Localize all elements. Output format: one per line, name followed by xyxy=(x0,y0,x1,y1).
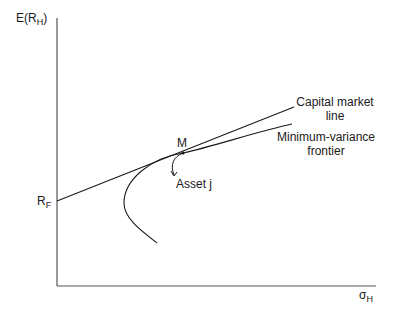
rf-label: RF xyxy=(37,194,51,208)
asset-j-arrow xyxy=(172,153,183,175)
asset-j-label: Asset j xyxy=(176,177,212,191)
cml-diagram: E(RH) RF σH M Asset j Capital market lin… xyxy=(0,0,393,311)
point-m-label: M xyxy=(177,136,187,150)
y-axis-label-main: E(R xyxy=(16,11,37,25)
y-axis-label: E(RH) xyxy=(16,11,47,25)
cml-label-line1: Capital market xyxy=(294,95,376,109)
frontier-label: Minimum-variance frontier xyxy=(271,130,381,158)
x-axis-label: σH xyxy=(359,288,373,302)
y-axis-label-close: ) xyxy=(43,11,47,25)
x-axis-label-sub: H xyxy=(366,294,373,304)
arrowhead-icon xyxy=(171,171,177,176)
rf-label-sub: F xyxy=(46,200,52,210)
cml-label-line2: line xyxy=(294,109,376,123)
frontier-label-line2: frontier xyxy=(271,144,381,158)
rf-label-main: R xyxy=(37,194,46,208)
frontier-label-line1: Minimum-variance xyxy=(271,130,381,144)
cml-label: Capital market line xyxy=(294,95,376,123)
point-m-marker xyxy=(181,151,184,154)
